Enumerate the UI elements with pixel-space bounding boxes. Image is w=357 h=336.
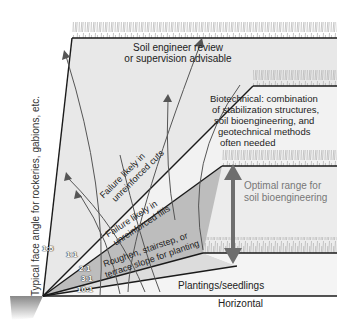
label-engineer-review-line2: or supervision advisable: [98, 53, 258, 64]
grass-2-1: [222, 150, 337, 166]
ground-wedge: [10, 296, 43, 320]
ratio-3-1: 3:1: [81, 274, 93, 283]
grass-3-1: [200, 237, 337, 253]
label-biotechnical: Biotechnical: combination of stabilizati…: [210, 93, 319, 148]
grass-top: [72, 22, 337, 38]
label-horizontal: Horizontal: [218, 298, 263, 309]
bio-line-2: of stabilization structures,: [212, 104, 319, 115]
bio-line-3: soil bioengineering, and: [214, 115, 319, 126]
bio-line-5: often needed: [220, 137, 319, 148]
optimal-line2: soil bioengineering: [244, 192, 327, 204]
label-engineer-review: Soil engineer review or supervision advi…: [98, 42, 258, 64]
ratio-1-5: 1:5: [42, 244, 54, 253]
vertical-axis-label: Typical face angle for rockeries, gabion…: [30, 96, 41, 296]
grass-1-1: [253, 70, 337, 86]
bio-line-1: Biotechnical: combination: [210, 93, 319, 104]
label-optimal-range: Optimal range for soil bioengineering: [244, 180, 327, 204]
bio-line-4: geotechnical methods: [218, 126, 319, 137]
ratio-10-1: 10:1: [77, 285, 93, 294]
optimal-line1: Optimal range for: [244, 180, 327, 192]
ratio-1-1: 1:1: [66, 250, 78, 259]
label-plantings: Plantings/seedlings: [178, 280, 264, 291]
ratio-2-1: 2:1: [79, 264, 91, 273]
label-engineer-review-line1: Soil engineer review: [98, 42, 258, 53]
